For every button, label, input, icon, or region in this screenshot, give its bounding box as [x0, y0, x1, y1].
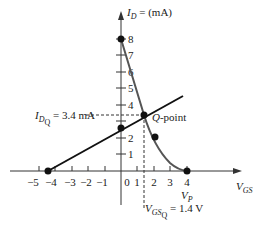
- q-point-label: Q-point: [152, 111, 186, 123]
- x-tick-label: −3: [64, 176, 76, 188]
- curve-point: [152, 134, 159, 141]
- x-axis-arrow-icon: [233, 168, 242, 174]
- x-tick-label: −2: [80, 176, 92, 188]
- bias-y-intercept-point: [118, 125, 125, 132]
- vp-point: [184, 168, 191, 175]
- x-ticks: [39, 166, 187, 171]
- idss-point: [118, 36, 125, 43]
- idq-label: IDQ = 3.4 mA: [34, 109, 95, 127]
- y-tick-label: 4: [128, 99, 134, 111]
- q-point-guides: [86, 115, 144, 210]
- y-tick-label: 8: [128, 33, 134, 45]
- x-tick-labels: −5 −4 −3 −2 −1 0 1 2 3 4: [27, 176, 190, 188]
- jfet-q-point-diagram: −5 −4 −3 −2 −1 0 1 2 3 4 8 7 6 5 4 2 1 I…: [0, 0, 264, 228]
- vgsq-label: VGSQ = 1.4 V: [145, 202, 203, 220]
- y-tick-label: 5: [128, 82, 134, 94]
- y-tick-label: 7: [128, 49, 134, 61]
- y-axis-arrow-icon: [118, 11, 124, 20]
- y-tick-labels: 8 7 6 5 4 2 1: [128, 33, 134, 160]
- x-tick-label: −4: [45, 176, 57, 188]
- q-point-marker: [141, 112, 148, 119]
- x-tick-label: −5: [27, 176, 39, 188]
- x-tick-label: −1: [96, 176, 108, 188]
- x-tick-label: 1: [134, 176, 140, 188]
- x-tick-label: 0: [124, 176, 130, 188]
- bias-x-intercept-point: [45, 168, 52, 175]
- y-tick-label: 1: [128, 148, 134, 160]
- x-tick-label: 3: [167, 176, 173, 188]
- y-tick-label: 2: [128, 132, 134, 144]
- y-axis-title: ID = (mA): [126, 6, 172, 21]
- bias-line: [48, 96, 183, 171]
- x-axis-title: VGS: [236, 180, 253, 195]
- x-tick-label: 4: [184, 176, 190, 188]
- x-tick-label: 2: [151, 176, 157, 188]
